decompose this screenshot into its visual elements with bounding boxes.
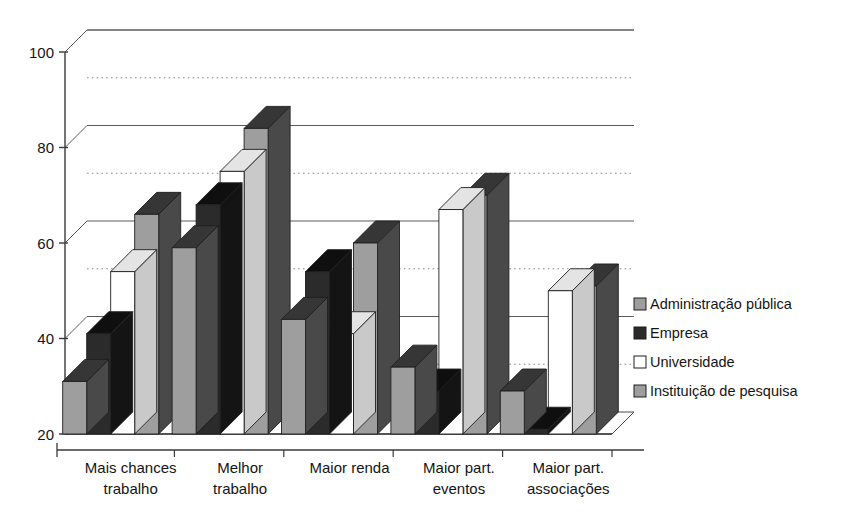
bar-side-face xyxy=(135,250,157,434)
y-axis-tick-label: 40 xyxy=(37,330,54,347)
category-label: Mais chances xyxy=(85,459,177,476)
bar-side-face xyxy=(463,188,485,434)
category-label: trabalho xyxy=(213,480,267,497)
chart-canvas: 20406080100Mais chancestrabalhoMelhortra… xyxy=(0,0,847,524)
legend-item[interactable]: Instituição de pesquisa xyxy=(634,383,798,399)
legend-swatch xyxy=(634,356,646,368)
top-left-perspective-edge xyxy=(65,30,87,52)
bar-side-face xyxy=(572,269,594,434)
legend-swatch xyxy=(634,327,646,339)
y-axis-tick-label: 80 xyxy=(37,139,54,156)
gridline-connector xyxy=(65,221,87,243)
legend-label: Instituição de pesquisa xyxy=(650,383,798,399)
bar-side-face xyxy=(244,149,266,434)
bar-front-face xyxy=(172,248,196,434)
legend-item[interactable]: Universidade xyxy=(634,354,735,370)
category-label: Maior part. xyxy=(423,459,495,476)
bar-side-face xyxy=(196,226,218,434)
category-label: Maior renda xyxy=(309,459,390,476)
bar-chart: 20406080100Mais chancestrabalhoMelhortra… xyxy=(0,0,847,524)
legend-item[interactable]: Empresa xyxy=(634,325,709,341)
y-axis-tick-label: 20 xyxy=(37,426,54,443)
y-axis-tick-label: 60 xyxy=(37,235,54,252)
y-axis-tick-label: 100 xyxy=(29,44,54,61)
category-label: associações xyxy=(527,480,610,497)
legend-swatch xyxy=(634,385,646,397)
category-label: Maior part. xyxy=(532,459,604,476)
bar-side-face xyxy=(330,250,352,434)
bar-side-face xyxy=(220,183,242,434)
bar-front-face xyxy=(391,367,415,434)
gridline-connector xyxy=(65,317,87,339)
bar-front-face xyxy=(500,391,524,434)
legend-label: Empresa xyxy=(650,325,709,341)
category-label: Melhor xyxy=(217,459,263,476)
legend-item[interactable]: Administração pública xyxy=(634,296,793,312)
legend-label: Administração pública xyxy=(650,296,793,312)
bar-side-face xyxy=(596,264,618,434)
legend-swatch xyxy=(634,298,646,310)
bar xyxy=(282,297,328,434)
bar-side-face xyxy=(306,297,328,434)
gridline-connector xyxy=(65,126,87,148)
category-label: eventos xyxy=(433,480,486,497)
bar-front-face xyxy=(282,319,306,434)
category-label: trabalho xyxy=(104,480,158,497)
legend-label: Universidade xyxy=(650,354,735,370)
bar xyxy=(172,226,218,434)
bar-front-face xyxy=(63,381,87,434)
